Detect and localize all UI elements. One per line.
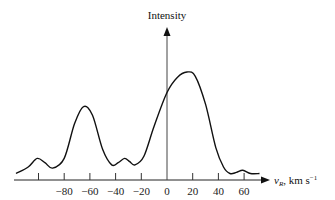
x-axis-arrow-icon	[261, 177, 270, 184]
x-tick-label: −20	[133, 185, 151, 197]
x-axis-tick-labels: −80−60−40−200204060	[56, 185, 251, 197]
x-axis-ticks	[39, 173, 245, 180]
x-tick-label: 40	[213, 185, 225, 197]
y-axis-arrow-icon	[164, 27, 171, 36]
x-axis-sup: −1	[310, 174, 318, 182]
x-axis-title: vR, km s−1	[274, 174, 318, 188]
x-tick-label: 60	[239, 185, 251, 197]
x-tick-label: 0	[164, 185, 170, 197]
intensity-curve	[16, 72, 260, 174]
x-tick-label: 20	[187, 185, 199, 197]
x-tick-label: −80	[56, 185, 74, 197]
x-axis-unit: , km s	[283, 174, 310, 186]
x-tick-label: −40	[107, 185, 125, 197]
intensity-velocity-chart: −80−60−40−200204060 Intensity vR, km s−1	[0, 0, 335, 200]
y-axis-title: Intensity	[148, 9, 187, 21]
x-tick-label: −60	[81, 185, 99, 197]
